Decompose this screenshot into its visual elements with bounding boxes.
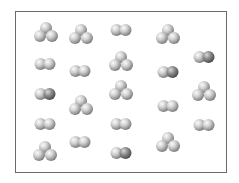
atom-icon (121, 59, 133, 71)
atom-icon (192, 89, 204, 101)
diatomic-molecule (70, 65, 91, 77)
atom-icon (121, 88, 133, 100)
diatomic-molecule (194, 119, 215, 131)
atom-icon (33, 149, 45, 161)
diatomic-molecule (70, 136, 91, 148)
atom-icon (81, 103, 93, 115)
atom-icon (168, 32, 180, 44)
atom-icon (109, 88, 121, 100)
diatomic-molecule (35, 118, 56, 130)
diatomic-molecule (194, 51, 215, 63)
atom-icon (203, 51, 215, 63)
atom-icon (44, 58, 56, 70)
atom-icon (79, 65, 91, 77)
triatomic-molecule (109, 51, 133, 71)
atom-icon (45, 149, 57, 161)
molecule-scene (0, 0, 239, 183)
triatomic-molecule (156, 132, 180, 152)
atom-icon (120, 147, 132, 159)
diatomic-molecule (35, 88, 56, 100)
atom-icon (79, 136, 91, 148)
triatomic-molecule (69, 95, 93, 115)
triatomic-molecule (69, 24, 93, 44)
atom-icon (167, 66, 179, 78)
atom-icon (156, 140, 168, 152)
atom-icon (109, 59, 121, 71)
atom-icon (156, 32, 168, 44)
atom-icon (120, 24, 132, 36)
diatomic-molecule (111, 118, 132, 130)
atom-icon (44, 118, 56, 130)
atom-icon (120, 118, 132, 130)
atom-icon (168, 140, 180, 152)
atom-icon (69, 32, 81, 44)
atom-icon (69, 103, 81, 115)
diatomic-molecule (35, 58, 56, 70)
atom-icon (203, 119, 215, 131)
atom-icon (204, 89, 216, 101)
atom-icon (44, 88, 56, 100)
triatomic-molecule (109, 80, 133, 100)
triatomic-molecule (34, 22, 58, 42)
diatomic-molecule (111, 147, 132, 159)
triatomic-molecule (33, 141, 57, 161)
triatomic-molecule (156, 24, 180, 44)
molecules-group (33, 22, 216, 161)
atom-icon (46, 30, 58, 42)
atom-icon (81, 32, 93, 44)
triatomic-molecule (192, 81, 216, 101)
atom-icon (167, 100, 179, 112)
atom-icon (34, 30, 46, 42)
diatomic-molecule (158, 66, 179, 78)
diatomic-molecule (158, 100, 179, 112)
diatomic-molecule (111, 24, 132, 36)
